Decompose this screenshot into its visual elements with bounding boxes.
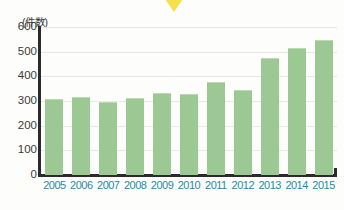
- bar: [207, 82, 225, 176]
- y-axis-tick: 500: [3, 46, 37, 57]
- bar: [153, 93, 171, 175]
- bar: [180, 94, 198, 175]
- x-axis-tick: 2008: [121, 179, 149, 191]
- x-axis-tick: 2009: [148, 179, 176, 191]
- y-axis-tick: 300: [3, 95, 37, 106]
- x-axis-tick: 2010: [175, 179, 203, 191]
- yellow-triangle-marker: [163, 0, 185, 12]
- x-axis-tick: 2007: [94, 179, 122, 191]
- y-axis-tick-labels: 0100200300400500600: [0, 0, 37, 210]
- x-axis-tick: 2011: [202, 179, 230, 191]
- bar: [261, 58, 279, 175]
- bar-series: [41, 27, 337, 175]
- x-axis-tick: 2015: [310, 179, 338, 191]
- bar: [45, 99, 63, 175]
- x-axis-tick: 2012: [229, 179, 257, 191]
- x-axis-tick: 2006: [67, 179, 95, 191]
- x-axis-tick: 2014: [283, 179, 311, 191]
- y-axis-tick: 0: [3, 169, 37, 180]
- bar: [99, 102, 117, 175]
- bar: [72, 97, 90, 175]
- y-axis-tick: 400: [3, 70, 37, 81]
- x-axis-tick: 2013: [256, 179, 284, 191]
- x-axis-tick: 2005: [40, 179, 68, 191]
- y-axis-tick: 200: [3, 120, 37, 131]
- bar: [315, 40, 333, 175]
- y-axis-tick: 600: [3, 21, 37, 32]
- bar: [234, 90, 252, 175]
- bar: [126, 98, 144, 175]
- bar: [288, 48, 306, 175]
- y-axis-tick: 100: [3, 144, 37, 155]
- bar-chart-figure: (件数) 0100200300400500600 200520062007200…: [0, 0, 344, 210]
